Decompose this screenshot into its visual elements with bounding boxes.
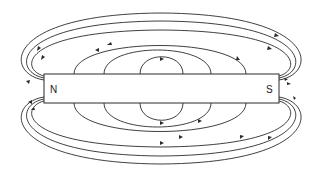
arrow-icon (107, 42, 112, 45)
field-line-outer-bottom-2 (27, 99, 296, 156)
field-line-outer-top-3 (32, 30, 291, 76)
field-line-outer-top-1 (21, 13, 301, 80)
arrow-icon (274, 33, 279, 37)
arrow-icon (293, 96, 296, 100)
arrow-icon (179, 135, 183, 139)
arrow-icon (287, 82, 291, 85)
field-line-outer-bottom-1 (21, 97, 301, 164)
bar-magnet (44, 74, 279, 103)
field-line-outer-top-2 (27, 21, 296, 78)
arrow-icon (160, 57, 164, 61)
field-loop-inner-bottom-2 (104, 103, 211, 127)
arrow-icon (95, 48, 99, 52)
north-pole-label: N (50, 84, 57, 95)
field-loop-inner-bottom-3 (140, 103, 183, 120)
field-loop-inner-top-2 (104, 50, 211, 74)
arrow-icon (160, 121, 164, 125)
arrow-icon (41, 55, 45, 60)
arrow-icon (160, 141, 164, 145)
south-pole-label: S (266, 84, 273, 95)
arrow-icon (198, 119, 202, 123)
arrow-icon (240, 135, 244, 139)
arrow-icon (267, 46, 272, 50)
arrow-icon (236, 56, 240, 60)
bar-magnet-field-diagram: N S (0, 0, 323, 172)
arrow-icon (26, 80, 30, 84)
